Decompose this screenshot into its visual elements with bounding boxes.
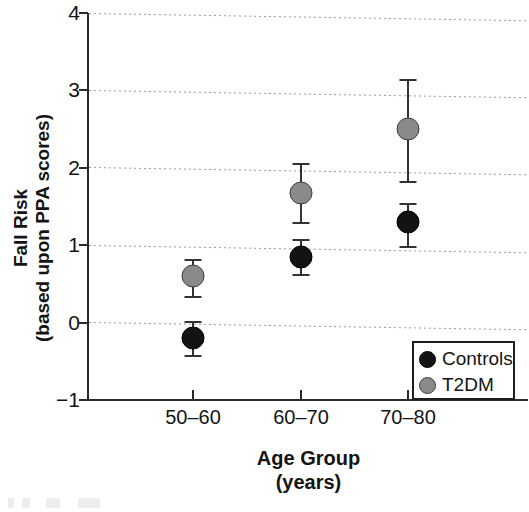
- error-bar-cap-lower: [293, 274, 310, 276]
- y-tick-mark: [79, 12, 88, 14]
- data-point-t2dm: [290, 181, 313, 204]
- legend: ControlsT2DM: [412, 341, 515, 400]
- y-tick-label: 0: [46, 311, 80, 335]
- legend-item: T2DM: [419, 372, 513, 398]
- y-tick-label: 3: [46, 78, 80, 102]
- data-point-controls: [290, 245, 313, 268]
- legend-label: T2DM: [442, 374, 494, 396]
- error-bar-cap-upper: [400, 203, 417, 205]
- error-bar-cap-lower: [293, 222, 310, 224]
- error-bar-cap-upper: [185, 321, 202, 323]
- x-tick-label: 50–60: [133, 406, 253, 429]
- y-axis-tick-labels: 43210−1: [44, 0, 80, 512]
- data-point-controls: [182, 327, 205, 350]
- error-bar-cap-upper: [293, 163, 310, 165]
- x-axis-title: Age Group (years): [88, 447, 529, 494]
- x-axis-title-line2: (years): [88, 471, 529, 495]
- data-point-t2dm: [397, 118, 420, 141]
- data-point-t2dm: [182, 265, 205, 288]
- legend-marker-icon: [419, 377, 436, 394]
- x-tick-mark: [407, 390, 409, 400]
- x-axis-title-line1: Age Group: [88, 447, 529, 471]
- y-axis-title-line1: Fall Risk: [10, 189, 32, 267]
- error-bar-cap-lower: [400, 181, 417, 183]
- x-tick-mark: [192, 390, 194, 400]
- gridline: [89, 90, 529, 98]
- y-tick-label: 1: [46, 233, 80, 257]
- x-tick-mark: [300, 390, 302, 400]
- error-bar-cap-upper: [185, 259, 202, 261]
- legend-item: Controls: [419, 346, 513, 372]
- y-tick-label: −1: [46, 388, 80, 412]
- legend-marker-icon: [419, 351, 436, 368]
- y-axis-line: [87, 13, 89, 401]
- fall-risk-scatter-chart: Fall Risk (based upon PPA scores) 43210−…: [0, 0, 529, 512]
- y-tick-label: 4: [46, 1, 80, 25]
- error-bar-cap-upper: [400, 79, 417, 81]
- gridline: [89, 13, 529, 21]
- legend-label: Controls: [442, 348, 513, 370]
- x-tick-label: 70–80: [348, 406, 468, 429]
- error-bar-cap-lower: [185, 355, 202, 357]
- y-tick-mark: [79, 167, 88, 169]
- y-tick-mark: [79, 399, 88, 401]
- error-bar-cap-lower: [185, 296, 202, 298]
- y-tick-mark: [79, 244, 88, 246]
- y-tick-label: 2: [46, 156, 80, 180]
- data-point-controls: [397, 210, 420, 233]
- y-tick-mark: [79, 322, 88, 324]
- gridline: [89, 322, 529, 330]
- scan-artifact: [8, 498, 128, 508]
- x-tick-label: 60–70: [241, 406, 361, 429]
- gridline: [89, 167, 529, 175]
- error-bar-cap-upper: [293, 239, 310, 241]
- error-bar-cap-lower: [400, 246, 417, 248]
- y-tick-mark: [79, 89, 88, 91]
